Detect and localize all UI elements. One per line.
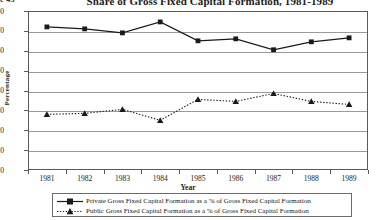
x-tick-mark xyxy=(255,170,256,174)
y-tick-label: 30 xyxy=(0,107,4,114)
x-tick-mark xyxy=(66,170,67,174)
x-tick-mark xyxy=(368,170,369,174)
y-tick-label: 70 xyxy=(0,27,4,34)
x-tick-mark xyxy=(179,170,180,174)
legend-item-private[interactable]: Private Gross Fixed Capital Formation as… xyxy=(57,196,347,206)
x-tick-label: 1988 xyxy=(291,174,331,183)
y-tick-label: 60 xyxy=(0,47,4,54)
data-point-triangle xyxy=(119,106,126,112)
x-tick-mark xyxy=(330,170,331,174)
data-point-triangle xyxy=(346,101,353,107)
y-tick-label: 20 xyxy=(0,127,4,134)
y-tick-label: 40 xyxy=(0,87,4,94)
chart-legend: Private Gross Fixed Capital Formation as… xyxy=(52,193,352,217)
x-tick-label: 1984 xyxy=(140,174,180,183)
x-tick-label: 1986 xyxy=(216,174,256,183)
data-point-square xyxy=(196,38,201,43)
data-point-square xyxy=(120,30,125,35)
data-point-triangle xyxy=(44,111,51,117)
x-tick-mark xyxy=(292,170,293,174)
y-tick-label: 50 xyxy=(0,67,4,74)
x-tick-mark xyxy=(141,170,142,174)
series-line-private xyxy=(47,22,349,50)
legend-item-public[interactable]: Public Gross Fixed Capital Formation as … xyxy=(57,206,347,216)
legend-marker-triangle-icon xyxy=(57,207,83,216)
data-point-square xyxy=(44,25,49,30)
y-tick-label: 80 xyxy=(0,8,4,15)
data-point-triangle xyxy=(195,96,202,102)
x-tick-label: 1981 xyxy=(27,174,67,183)
x-axis-title: Year xyxy=(0,183,376,192)
data-point-square xyxy=(271,47,276,52)
y-tick-label: 10 xyxy=(0,147,4,154)
x-tick-mark xyxy=(217,170,218,174)
data-point-square xyxy=(309,39,314,44)
data-point-square xyxy=(347,35,352,40)
data-point-square xyxy=(233,36,238,41)
data-point-triangle xyxy=(81,110,88,116)
legend-marker-square-icon xyxy=(57,197,83,206)
x-tick-label: 1989 xyxy=(329,174,369,183)
x-tick-label: 1987 xyxy=(254,174,294,183)
x-tick-mark xyxy=(28,170,29,174)
legend-label-public: Public Gross Fixed Capital Formation as … xyxy=(86,207,309,216)
series-layer xyxy=(28,11,368,170)
data-point-triangle xyxy=(270,90,277,96)
legend-label-private: Private Gross Fixed Capital Formation as… xyxy=(86,197,311,206)
x-tick-label: 1983 xyxy=(102,174,142,183)
data-point-triangle xyxy=(233,98,240,104)
x-tick-label: 1982 xyxy=(65,174,105,183)
x-tick-label: 1985 xyxy=(178,174,218,183)
data-point-square xyxy=(82,26,87,31)
y-tick-label: 0 xyxy=(0,167,4,174)
data-point-square xyxy=(158,20,163,25)
x-tick-mark xyxy=(104,170,105,174)
chart-container: e 43 Share of Gross Fixed Capital Format… xyxy=(0,0,376,220)
